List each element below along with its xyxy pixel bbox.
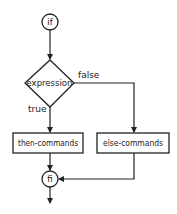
- then-commands-label: then-commands: [18, 138, 78, 148]
- edge-false-to-else: [74, 83, 134, 132]
- else-commands-label: else-commands: [103, 138, 163, 148]
- process-node-else-commands: else-commands: [97, 133, 169, 153]
- end-node-fi: fi: [42, 171, 58, 187]
- end-node-label: fi: [47, 174, 52, 184]
- process-node-then-commands: then-commands: [13, 133, 83, 153]
- edge-label-false: false: [78, 70, 100, 80]
- start-node-if: if: [42, 14, 58, 30]
- edge-label-true: true: [28, 104, 47, 114]
- edge-else-to-fi: [59, 153, 134, 179]
- start-node-label: if: [47, 17, 53, 27]
- flowchart: if expression false true then-commands e…: [0, 0, 177, 214]
- decision-node-expression: expression: [25, 60, 74, 107]
- decision-node-label: expression: [27, 78, 73, 88]
